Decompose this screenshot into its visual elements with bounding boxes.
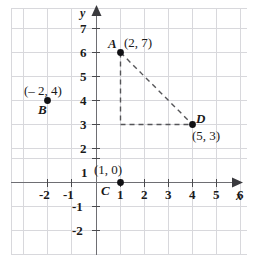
y-axis [92,5,102,255]
y-tick-label-7: 7 [80,22,87,35]
point-a-dot [117,49,124,56]
point-c-dot [117,179,124,186]
point-c-coords: (1, 0) [94,163,122,176]
y-axis-arrow-icon [92,5,102,16]
y-tick-label-neg2: -2 [72,224,83,237]
x-tick-label-5: 5 [213,188,220,201]
x-tick-label-2: 2 [141,188,148,201]
x-tick-label-4: 4 [189,188,196,201]
coordinate-plane-figure: 7 6 5 4 3 2 1 -1 -2 -2 -1 1 2 3 4 5 6 y … [0,0,257,266]
x-tick-label-neg2: -2 [39,188,50,201]
point-b-coords: (– 2, 4) [24,84,62,97]
triangle-hypotenuse [121,53,193,125]
y-tick-label-1: 1 [81,166,88,179]
point-d-coords: (5, 3) [192,129,220,142]
point-c-label: C [101,184,110,197]
y-tick-label-4: 4 [80,94,87,107]
x-tick-label-3: 3 [165,188,172,201]
point-a-coords: (2, 7) [124,36,152,49]
point-d-label: D [196,112,205,125]
point-a-label: A [108,37,117,50]
point-d-dot [189,121,196,128]
y-tick-label-6: 6 [80,46,87,59]
x-tick-label-neg1: -1 [63,188,74,201]
dashed-triangle [121,53,193,125]
y-tick-label-2: 2 [80,142,87,155]
x-axis-label: x [236,190,242,202]
x-axis-arrow-icon [232,178,243,188]
y-axis-label: y [80,7,85,19]
y-tick-label-5: 5 [80,70,87,83]
y-tick-label-3: 3 [80,118,87,131]
x-axis [11,178,243,188]
point-b-label: B [38,103,47,116]
x-tick-label-1: 1 [117,188,124,201]
